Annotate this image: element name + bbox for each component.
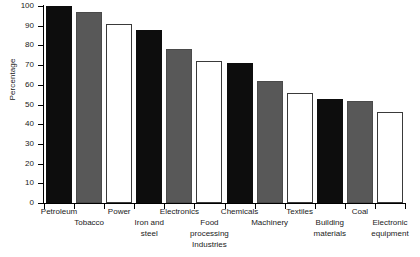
bar [377, 112, 403, 203]
y-tick-label: 30 [0, 140, 34, 148]
x-tick-mark [315, 204, 316, 209]
x-tick-mark [375, 204, 376, 209]
x-axis-title: Industries [192, 240, 227, 249]
bar-chart: Percentage 0102030405060708090100 Petrol… [0, 0, 420, 257]
y-tick-label: 80 [0, 41, 34, 49]
y-tick-label: 100 [0, 2, 34, 10]
category-label: Buildingmaterials [314, 218, 346, 239]
y-tick-label: 0 [0, 199, 34, 207]
bar [347, 101, 373, 203]
y-tick-label: 40 [0, 120, 34, 128]
category-label: Petroleum [41, 207, 77, 218]
bar [46, 6, 72, 203]
x-tick-mark [104, 204, 105, 209]
category-label: Coal [352, 207, 368, 218]
bar [257, 81, 283, 203]
bar [317, 99, 343, 203]
category-label: Foodprocessing [190, 218, 229, 239]
bar [76, 12, 102, 203]
y-tick-label: 20 [0, 160, 34, 168]
bar [287, 93, 313, 203]
y-tick-label: 10 [0, 179, 34, 187]
x-tick-mark [345, 204, 346, 209]
bar [196, 61, 222, 203]
y-tick-label: 90 [0, 22, 34, 30]
category-label: Electronicequipment [371, 218, 408, 239]
category-label: Textiles [286, 207, 313, 218]
category-label: Tobacco [74, 218, 104, 229]
x-tick-mark [134, 204, 135, 209]
y-tick-label: 50 [0, 101, 34, 109]
x-tick-mark [405, 204, 406, 209]
bar [136, 30, 162, 203]
category-label: Chemicals [221, 207, 258, 218]
bar [106, 24, 132, 203]
category-label: Iron andsteel [135, 218, 164, 239]
y-tick-label: 70 [0, 61, 34, 69]
bar [227, 63, 253, 203]
plot-area [44, 6, 405, 203]
bar [166, 49, 192, 203]
category-label: Power [108, 207, 131, 218]
y-tick-label: 60 [0, 81, 34, 89]
category-label: Machinery [251, 218, 288, 229]
category-label: Electronics [160, 207, 199, 218]
